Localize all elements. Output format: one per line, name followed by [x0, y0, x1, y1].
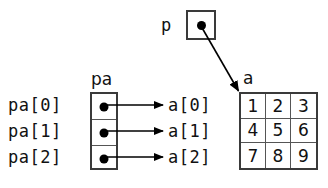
pa-row-label-0: pa[0] — [8, 97, 62, 114]
pa-cell-0-dot — [100, 102, 109, 111]
a-row-label-2: a[2] — [168, 149, 211, 166]
pa-cell-2[interactable] — [92, 146, 116, 172]
a-matrix-grid: 1 2 3 4 5 6 7 8 9 — [239, 92, 318, 170]
pointer-p-label: p — [161, 17, 171, 34]
a-cell-1-0[interactable]: 4 — [241, 119, 266, 144]
pa-cell-1-dot — [100, 128, 109, 137]
a-cell-0-2[interactable]: 3 — [291, 94, 316, 119]
a-cell-0-0[interactable]: 1 — [241, 94, 266, 119]
a-row-label-0: a[0] — [168, 97, 211, 114]
pa-array-header: pa — [91, 71, 112, 88]
a-cell-0-1[interactable]: 2 — [266, 94, 291, 119]
pointer-p-box[interactable] — [186, 10, 216, 40]
pa-row-label-1: pa[1] — [8, 123, 62, 140]
a-cell-2-0[interactable]: 7 — [241, 143, 266, 168]
pa-row-label-2: pa[2] — [8, 149, 62, 166]
diagram-canvas: p pa pa[0] pa[1] pa[2] a[0] a[1] a[2] a … — [0, 0, 328, 188]
pa-cell-0[interactable] — [92, 94, 116, 120]
a-cell-1-2[interactable]: 6 — [291, 119, 316, 144]
pa-array-box — [90, 92, 118, 170]
pa-cell-1[interactable] — [92, 120, 116, 146]
a-cell-2-1[interactable]: 8 — [266, 143, 291, 168]
a-matrix-header: a — [243, 70, 253, 87]
a-cell-2-2[interactable]: 9 — [291, 143, 316, 168]
pa-cell-2-dot — [100, 155, 109, 164]
a-cell-1-1[interactable]: 5 — [266, 119, 291, 144]
a-row-label-1: a[1] — [168, 123, 211, 140]
pointer-p-dot — [197, 21, 206, 30]
